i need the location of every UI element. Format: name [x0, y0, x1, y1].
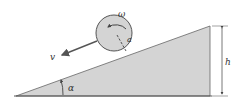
- rolling-disk: [96, 15, 132, 51]
- diagram-canvas: ω a v h α: [0, 0, 237, 102]
- radius-label: a: [127, 35, 132, 44]
- velocity-label: v: [50, 52, 55, 62]
- omega-label: ω: [118, 9, 126, 19]
- height-label: h: [225, 57, 231, 67]
- angle-label: α: [68, 83, 74, 93]
- velocity-arrow-icon: [62, 41, 97, 55]
